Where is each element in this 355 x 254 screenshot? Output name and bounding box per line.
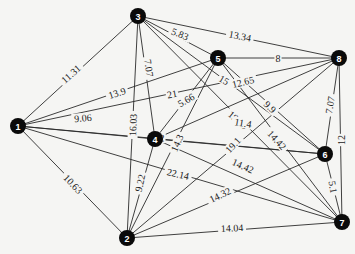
edge-weight-text: 22.14	[166, 166, 190, 182]
node-label: 2	[124, 234, 129, 244]
edge-weight-label: 8	[274, 53, 281, 64]
edge-weight-text: 5.1	[326, 180, 339, 194]
edge-weight-label: 9.9	[260, 97, 280, 117]
edge-weight-label: 7.07	[142, 56, 156, 80]
edge-weight-label: 7.07	[323, 93, 338, 117]
node-5: 5	[210, 50, 226, 66]
node-2: 2	[119, 230, 135, 246]
edge-weight-text: 14.04	[220, 222, 243, 234]
nodes-layer: 12345678	[10, 8, 350, 246]
edge-weight-label: 16.03	[127, 111, 139, 139]
edge-weight-text: 14.42	[230, 156, 255, 175]
edge-weight-text: 15	[217, 73, 231, 88]
weighted-graph-canvas: 11.3113.9219.06222.1410.635.8313.347.071…	[0, 0, 355, 254]
edge-weight-text: 9.06	[74, 112, 92, 124]
node-8: 8	[331, 50, 347, 66]
edge-weight-label: 12.65	[228, 73, 258, 90]
edge-weight-label: 14.04	[218, 222, 247, 234]
edge-weight-label: 9.22	[132, 171, 148, 196]
edge-weight-text: 12	[336, 135, 347, 145]
edge-weight-text: 13.9	[107, 85, 127, 101]
edge-weight-label: 13.34	[225, 28, 255, 44]
node-3: 3	[130, 8, 146, 24]
node-label: 8	[336, 54, 341, 64]
edge-weight-label: 14.32	[205, 184, 235, 206]
edge-weight-label: 5.1	[326, 177, 340, 196]
edge-weight-label: 13.9	[104, 84, 129, 102]
edge-weight-text: 8	[276, 53, 281, 64]
edge-weight-text: 14.32	[207, 185, 232, 205]
edge-weight-label: 11.31	[57, 61, 85, 88]
edge-weight-text: 11.4	[234, 116, 253, 130]
edge-weight-label: 12	[336, 134, 347, 146]
node-label: 5	[215, 54, 220, 64]
edge-weight-label: 9.06	[71, 112, 95, 125]
edge-weight-label: 10.63	[59, 170, 86, 198]
edge-weight-label: 19.1	[221, 133, 245, 157]
edge-weight-text: 13.34	[228, 28, 252, 43]
edge-1-8	[18, 58, 339, 126]
edge-weight-text: 16.03	[127, 114, 139, 137]
node-label: 4	[152, 135, 157, 145]
node-label: 3	[135, 12, 140, 22]
edge-weight-label: 22.14	[163, 165, 193, 182]
edges-layer	[18, 16, 342, 238]
edge-labels-layer: 11.3113.9219.06222.1410.635.8313.347.071…	[57, 25, 347, 235]
node-1: 1	[10, 118, 26, 134]
node-label: 6	[322, 150, 327, 160]
node-6: 6	[317, 146, 333, 162]
node-label: 1	[15, 122, 20, 132]
edge-weight-text: 7.07	[323, 95, 337, 114]
edge-weight-label: 11.4	[231, 116, 255, 131]
graph-diagram: 11.3113.9219.06222.1410.635.8313.347.071…	[0, 0, 355, 254]
node-4: 4	[147, 131, 163, 147]
node-label: 7	[339, 218, 344, 228]
edge-weight-text: 9.22	[133, 173, 147, 192]
node-7: 7	[334, 214, 350, 230]
edge-weight-text: 7.07	[142, 59, 155, 78]
